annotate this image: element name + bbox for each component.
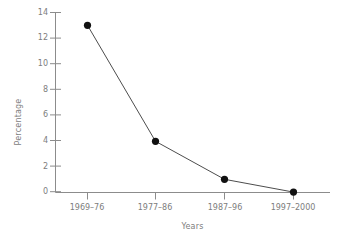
data-point-marker [290, 189, 297, 196]
line-chart: Percentage 14 12 10 8 6 4 2 0 1969–76 19… [0, 0, 339, 244]
data-point-marker [152, 138, 159, 145]
data-line-series-1 [88, 25, 294, 192]
x-tick-marks [88, 193, 294, 200]
plot-area [0, 0, 339, 244]
data-point-marker [221, 176, 228, 183]
data-point-marker [84, 22, 91, 29]
